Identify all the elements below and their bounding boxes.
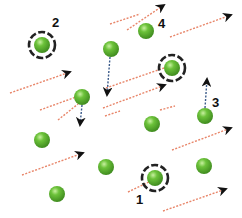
particle-diagram: 1 2 3 4 bbox=[0, 0, 242, 218]
label-3: 3 bbox=[212, 95, 219, 110]
particle bbox=[34, 132, 50, 148]
vertical-arrow bbox=[107, 57, 110, 95]
drift-arrow bbox=[170, 15, 231, 37]
particle bbox=[144, 116, 160, 132]
drift-arrow bbox=[40, 97, 76, 110]
particle bbox=[196, 158, 212, 174]
drift-arrow bbox=[172, 128, 231, 150]
particle bbox=[147, 170, 163, 186]
labels: 1 2 3 4 bbox=[52, 15, 219, 207]
label-1: 1 bbox=[136, 192, 143, 207]
label-4: 4 bbox=[158, 16, 166, 31]
particle bbox=[74, 89, 90, 105]
particle bbox=[34, 37, 50, 53]
drift-arrow bbox=[22, 153, 83, 175]
drift-arrow bbox=[163, 189, 226, 211]
drift-arrow bbox=[58, 104, 78, 120]
particles bbox=[29, 23, 213, 202]
vertical-arrow bbox=[205, 79, 207, 108]
drift-arrows bbox=[10, 5, 231, 211]
drift-arrow bbox=[106, 68, 164, 88]
drift-arrow bbox=[110, 14, 140, 24]
particle bbox=[138, 23, 154, 39]
particle bbox=[197, 108, 213, 124]
drift-arrow bbox=[105, 111, 120, 116]
drift-arrow bbox=[160, 106, 175, 110]
vertical-arrows bbox=[80, 57, 207, 125]
particle bbox=[49, 186, 65, 202]
vertical-arrow bbox=[80, 105, 82, 125]
particle bbox=[98, 159, 114, 175]
label-2: 2 bbox=[52, 15, 59, 30]
diagram-canvas: 1 2 3 4 bbox=[0, 0, 242, 218]
particle bbox=[103, 41, 119, 57]
drift-arrow bbox=[103, 85, 165, 108]
drift-arrow bbox=[10, 72, 70, 93]
particle bbox=[164, 60, 180, 76]
